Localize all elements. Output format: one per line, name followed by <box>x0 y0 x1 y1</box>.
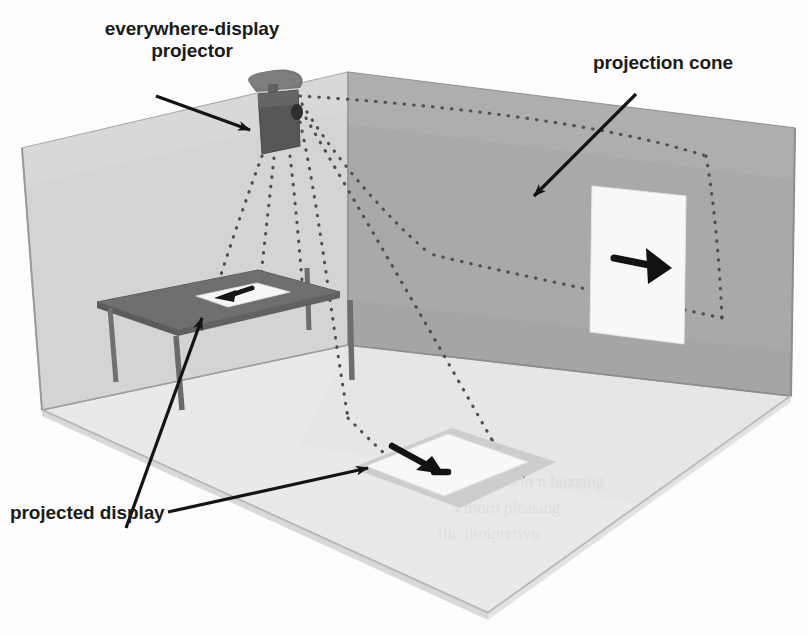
table-leg-front-right <box>350 300 352 380</box>
label-projection-cone: projection cone <box>548 52 778 74</box>
room-illustration: lie livo in n buzzing a moro pleasing il… <box>0 0 808 636</box>
label-projected-display: projected display <box>10 502 260 524</box>
wall-display <box>590 186 686 344</box>
figure-everywhere-display: lie livo in n buzzing a moro pleasing il… <box>0 0 808 636</box>
room-shell <box>22 72 795 620</box>
svg-text:ilic iitoiprctivo: ilic iitoiprctivo <box>438 524 540 543</box>
projector-lens <box>291 104 303 120</box>
label-everywhere-display-projector: everywhere-display projector <box>72 18 312 61</box>
